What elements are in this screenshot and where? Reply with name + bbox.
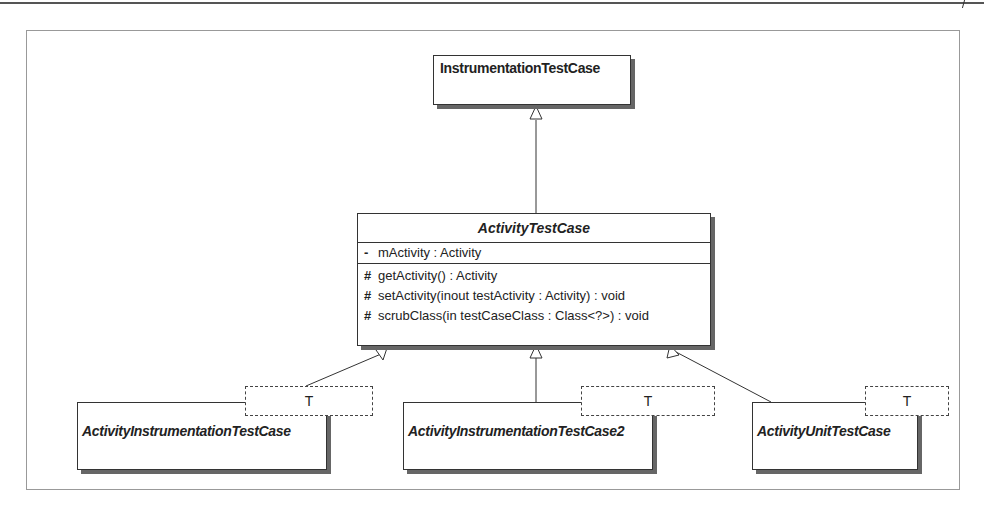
operation-set-activity: #setActivity(inout testActivity : Activi… (358, 286, 710, 306)
visibility-protected: # (364, 286, 378, 306)
class-name: ActivityInstrumentationTestCase (78, 423, 326, 439)
visibility-protected: # (364, 306, 378, 326)
visibility-private: - (364, 243, 378, 263)
class-name: InstrumentationTestCase (434, 60, 630, 76)
class-activity-test-case[interactable]: ActivityTestCase -mActivity : Activity #… (357, 213, 711, 346)
type-parameter-box: T (865, 386, 949, 416)
operations-compartment: #getActivity() : Activity #setActivity(i… (358, 264, 710, 326)
generalization-arrow-icon (376, 345, 388, 360)
operation-get-activity: #getActivity() : Activity (358, 266, 710, 286)
class-name: ActivityInstrumentationTestCase2 (404, 423, 652, 439)
class-name: ActivityUnitTestCase (753, 423, 917, 439)
type-parameter-box: T (245, 386, 373, 416)
generalization-arrow-icon (667, 345, 679, 358)
attribute-mactivity: -mActivity : Activity (358, 243, 710, 263)
operation-scrub-class: #scrubClass(in testCaseClass : Class<?>)… (358, 306, 710, 326)
connector-ait-to-atc (306, 354, 381, 386)
class-name: ActivityTestCase (358, 214, 710, 243)
generalization-arrow-icon (530, 106, 542, 119)
class-instrumentation-test-case[interactable]: InstrumentationTestCase (433, 55, 631, 105)
generalization-arrow-icon (530, 345, 542, 358)
attributes-compartment: -mActivity : Activity (358, 243, 710, 264)
visibility-protected: # (364, 266, 378, 286)
type-parameter-box: T (581, 386, 715, 416)
